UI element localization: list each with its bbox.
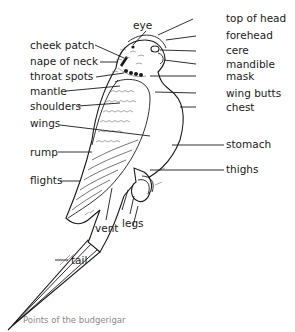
labels-right: top of head forehead cere mandible mask …	[226, 12, 286, 175]
label-mandible: mandible	[226, 58, 275, 70]
label-throat-spots: throat spots	[30, 70, 93, 82]
label-chest: chest	[226, 101, 254, 113]
label-forehead: forehead	[226, 29, 273, 41]
cere-shape	[151, 46, 159, 52]
label-top-of-head: top of head	[226, 12, 286, 24]
label-mantle: mantle	[30, 85, 67, 97]
label-legs: legs	[122, 217, 144, 229]
label-flights: flights	[30, 174, 62, 186]
diagram-caption: Points of the budgerigar	[23, 315, 126, 325]
label-vent: vent	[95, 222, 118, 234]
label-cheek-patch: cheek patch	[30, 39, 94, 51]
label-wings: wings	[30, 117, 60, 129]
budgerigar-diagram: cheek patch nape of neck throat spots ma…	[0, 0, 295, 332]
label-tail: tail	[71, 254, 87, 266]
label-shoulders: shoulders	[30, 100, 81, 112]
label-wing-butts: wing butts	[226, 87, 281, 99]
label-eye: eye	[133, 19, 152, 31]
label-cere: cere	[226, 44, 249, 56]
label-stomach: stomach	[226, 138, 271, 150]
eye-dot	[131, 45, 134, 48]
label-rump: rump	[30, 146, 58, 158]
label-thighs: thighs	[226, 163, 258, 175]
label-nape-of-neck: nape of neck	[30, 55, 99, 67]
label-mask: mask	[226, 70, 255, 82]
